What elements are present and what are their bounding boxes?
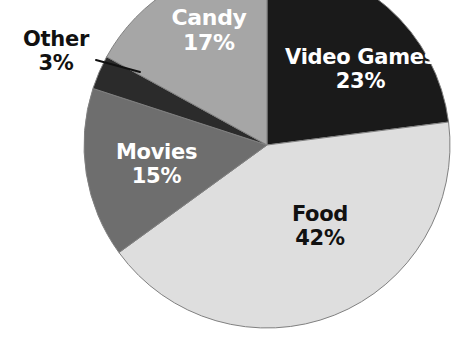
pie-slice-video-games [267, 0, 449, 145]
pie-chart-figure: Video Games 23% Food 42% Movies 15% Othe… [0, 0, 453, 361]
pie-chart-svg [0, 0, 453, 361]
pie-slices-group [84, 0, 450, 328]
